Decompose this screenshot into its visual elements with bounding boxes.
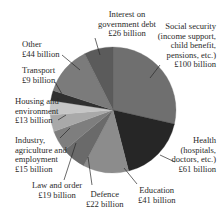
label-social-security: Social security (income support, child b… [158,22,216,70]
label-other: Other £44 billion [22,40,59,59]
label-defence: Defence £22 billion [86,190,123,209]
label-interest: Interest on government debt £26 billion [98,10,156,39]
label-industry: Industry, agriculture and employment £15… [15,136,67,174]
label-health: Health (hospitals, doctors, etc.) £61 bi… [171,136,216,174]
label-housing: Housing and environment £13 billion [15,97,59,126]
label-transport: Transport £9 billion [22,66,55,85]
label-education: Education £41 billion [138,186,175,205]
label-law-and-order: Law and order £19 billion [32,181,82,200]
